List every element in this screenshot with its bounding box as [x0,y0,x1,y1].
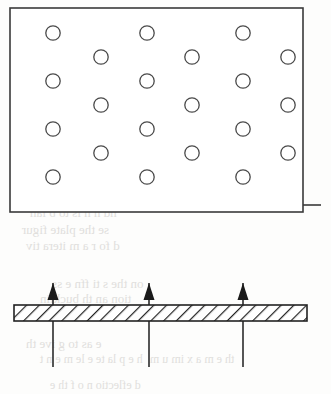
load-arrow-head [48,283,59,300]
hatched-plate-panel [14,283,307,367]
hatched-plate-bar [14,305,307,321]
load-arrow-head [238,283,249,300]
rectangular-domain-panel [10,8,321,212]
load-arrow-head [144,283,155,300]
domain-rectangle [10,8,303,212]
load-arrow-head-group [48,283,249,300]
technical-figure [0,0,331,394]
